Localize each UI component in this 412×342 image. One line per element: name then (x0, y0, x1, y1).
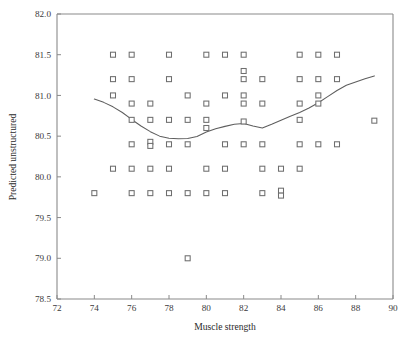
data-point-marker (316, 101, 321, 106)
data-point-marker (279, 188, 284, 193)
data-point-marker (241, 77, 246, 82)
data-point-marker (167, 166, 172, 171)
scatter-plot: 78.579.079.580.080.581.081.582.0 7274767… (0, 0, 412, 342)
data-point-marker (185, 191, 190, 196)
data-point-marker (297, 101, 302, 106)
data-point-marker (297, 142, 302, 147)
x-tick-label: 74 (90, 303, 100, 313)
x-axis: 72747678808284868890 (52, 295, 398, 313)
data-point-marker (223, 191, 228, 196)
data-point-marker (167, 52, 172, 57)
data-point-marker (129, 101, 134, 106)
data-point-marker (129, 191, 134, 196)
data-point-marker (167, 191, 172, 196)
data-point-marker (335, 77, 340, 82)
data-point-marker (148, 143, 153, 148)
data-point-marker (335, 52, 340, 57)
data-point-marker (241, 101, 246, 106)
data-point-marker (335, 142, 340, 147)
x-axis-title: Muscle strength (194, 321, 256, 332)
data-points (92, 52, 377, 261)
fitted-curve (94, 76, 374, 139)
data-point-marker (260, 142, 265, 147)
figure-container: 78.579.079.580.080.581.081.582.0 7274767… (0, 0, 412, 342)
x-tick-label: 86 (314, 303, 324, 313)
data-point-marker (204, 126, 209, 131)
data-point-marker (129, 52, 134, 57)
data-point-marker (167, 117, 172, 122)
data-point-marker (297, 117, 302, 122)
data-point-marker (316, 77, 321, 82)
data-point-marker (185, 117, 190, 122)
data-point-marker (204, 101, 209, 106)
x-tick-label: 88 (351, 303, 361, 313)
y-tick-label: 79.5 (35, 213, 51, 223)
data-point-marker (204, 52, 209, 57)
x-tick-label: 80 (202, 303, 212, 313)
data-point-marker (297, 52, 302, 57)
data-point-marker (316, 52, 321, 57)
y-axis-title: Predicted unstructured (7, 114, 18, 201)
data-point-marker (148, 117, 153, 122)
y-tick-label: 79.0 (35, 253, 51, 263)
data-point-marker (241, 142, 246, 147)
data-point-marker (223, 52, 228, 57)
data-point-marker (111, 77, 116, 82)
x-tick-label: 90 (388, 303, 398, 313)
data-point-marker (223, 142, 228, 147)
y-tick-label: 78.5 (35, 294, 51, 304)
data-point-marker (167, 142, 172, 147)
data-point-marker (316, 93, 321, 98)
data-point-marker (185, 256, 190, 261)
x-tick-label: 72 (52, 303, 62, 313)
data-point-marker (204, 191, 209, 196)
data-point-marker (129, 77, 134, 82)
data-point-marker (241, 69, 246, 74)
data-point-marker (279, 193, 284, 198)
data-point-marker (129, 142, 134, 147)
data-point-marker (129, 166, 134, 171)
data-point-marker (204, 117, 209, 122)
y-tick-label: 81.5 (35, 50, 51, 60)
data-point-marker (260, 101, 265, 106)
data-point-marker (260, 191, 265, 196)
x-tick-label: 78 (164, 303, 174, 313)
data-point-marker (148, 166, 153, 171)
data-point-marker (185, 93, 190, 98)
data-point-marker (279, 166, 284, 171)
data-point-marker (316, 142, 321, 147)
data-point-marker (111, 166, 116, 171)
data-point-marker (167, 77, 172, 82)
data-point-marker (185, 142, 190, 147)
data-point-marker (372, 118, 377, 123)
data-point-marker (111, 93, 116, 98)
data-point-marker (111, 52, 116, 57)
data-point-marker (204, 166, 209, 171)
x-tick-label: 76 (127, 303, 137, 313)
data-point-marker (297, 77, 302, 82)
y-tick-label: 82.0 (35, 9, 51, 19)
y-tick-label: 80.0 (35, 172, 51, 182)
data-point-marker (260, 77, 265, 82)
data-point-marker (223, 93, 228, 98)
data-point-marker (297, 166, 302, 171)
x-tick-label: 84 (276, 303, 286, 313)
y-tick-label: 80.5 (35, 131, 51, 141)
data-point-marker (129, 117, 134, 122)
data-point-marker (148, 191, 153, 196)
data-point-marker (92, 191, 97, 196)
y-tick-label: 81.0 (35, 91, 51, 101)
data-point-marker (241, 119, 246, 124)
data-point-marker (223, 166, 228, 171)
data-point-marker (241, 52, 246, 57)
data-point-marker (260, 166, 265, 171)
x-tick-label: 82 (239, 303, 249, 313)
data-point-marker (241, 93, 246, 98)
data-point-marker (148, 101, 153, 106)
